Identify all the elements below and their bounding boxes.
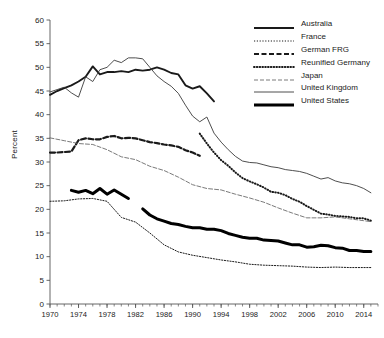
legend-item-label: Reunified Germany [301,59,370,67]
legend-item-label: France [301,33,326,41]
legend-item-label: Japan [301,72,323,80]
legend-item[interactable]: Reunified Germany [252,56,370,69]
y-tick-label: 5 [40,276,45,285]
y-tick-label: 35 [35,134,44,143]
series-line-france [50,198,371,267]
legend-item-label: Australia [301,20,332,28]
legend-item-label: United Kingdom [301,84,358,92]
legend-line-swatch-icon [252,71,296,81]
series-line-united-states [71,189,128,199]
x-tick-label: 1982 [127,310,144,319]
x-tick-label: 1990 [184,310,201,319]
legend-line-swatch-icon [252,96,296,106]
y-tick-label: 20 [35,205,44,214]
legend-item[interactable]: France [252,31,370,44]
chart-figure: Percent 05101520253035404550556019701974… [0,0,384,338]
x-tick-label: 2014 [355,310,372,319]
x-tick-label: 2006 [298,310,315,319]
y-tick-label: 60 [35,16,44,25]
y-tick-label: 30 [35,158,44,167]
series-line-united-states [143,209,371,252]
y-tick-label: 50 [35,63,44,72]
legend-line-swatch-icon [252,58,296,68]
x-tick-label: 1978 [99,310,116,319]
y-tick-label: 55 [35,39,44,48]
x-tick-label: 1986 [156,310,173,319]
x-tick-label: 1970 [42,310,59,319]
chart-legend: AustraliaFranceGerman FRGReunified Germa… [252,18,370,108]
y-tick-label: 10 [35,252,44,261]
legend-item-label: United States [301,97,349,105]
legend-line-swatch-icon [252,83,296,93]
y-tick-label: 25 [35,181,44,190]
legend-item[interactable]: United Kingdom [252,82,370,95]
y-tick-label: 40 [35,110,44,119]
legend-item[interactable]: Japan [252,69,370,82]
legend-line-swatch-icon [252,32,296,42]
legend-item[interactable]: Australia [252,18,370,31]
legend-item[interactable]: United States [252,95,370,108]
y-tick-label: 15 [35,229,44,238]
y-tick-label: 0 [40,300,45,309]
series-line-australia [50,66,214,101]
legend-item-label: German FRG [301,46,349,54]
x-tick-label: 1994 [213,310,230,319]
x-tick-label: 1974 [70,310,87,319]
legend-item[interactable]: German FRG [252,44,370,57]
legend-line-swatch-icon [252,19,296,29]
series-line-german-frg [50,136,200,156]
series-line-japan [50,138,371,222]
legend-line-swatch-icon [252,45,296,55]
x-tick-label: 2002 [270,310,287,319]
x-tick-label: 2010 [327,310,344,319]
x-tick-label: 1998 [241,310,258,319]
y-tick-label: 45 [35,87,44,96]
